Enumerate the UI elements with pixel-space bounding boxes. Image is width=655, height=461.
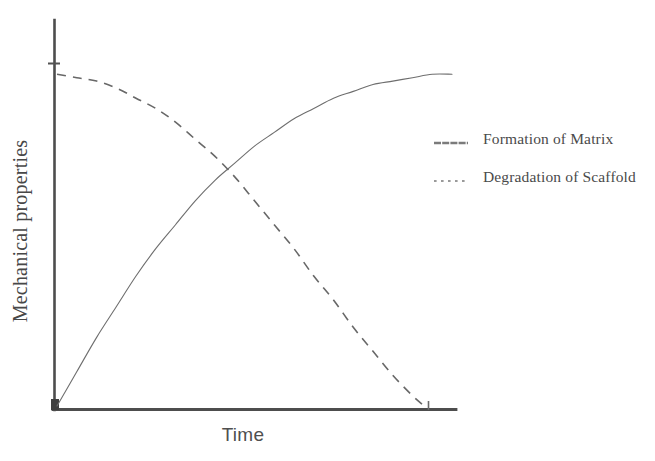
legend-line-sample-solid-icon xyxy=(434,141,468,145)
legend-line-sample-dotted-icon xyxy=(434,179,468,183)
series-line-degradation-of-scaffold xyxy=(57,74,424,406)
chart-figure: Mechanical properties Time Formation of … xyxy=(0,0,655,461)
legend-item-degradation-of-scaffold: Degradation of Scaffold xyxy=(430,166,655,204)
legend-label-degradation-of-scaffold: Degradation of Scaffold xyxy=(483,168,636,186)
series-line-formation-of-matrix xyxy=(57,74,452,406)
x-axis-title: Time xyxy=(183,424,303,446)
chart-legend: Formation of Matrix Degradation of Scaff… xyxy=(430,128,655,204)
x-axis-title-text: Time xyxy=(222,424,265,445)
y-axis-title-text: Mechanical properties xyxy=(9,139,32,321)
plot-canvas xyxy=(0,0,655,461)
legend-label-formation-of-matrix: Formation of Matrix xyxy=(483,130,613,148)
legend-item-formation-of-matrix: Formation of Matrix xyxy=(430,128,655,166)
y-axis-title: Mechanical properties xyxy=(0,0,40,461)
